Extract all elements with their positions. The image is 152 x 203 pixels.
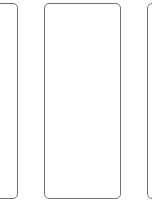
card-middle[interactable] [44, 3, 121, 199]
card-left[interactable] [0, 3, 18, 199]
card-carousel [0, 0, 152, 203]
card-right[interactable] [147, 3, 152, 199]
